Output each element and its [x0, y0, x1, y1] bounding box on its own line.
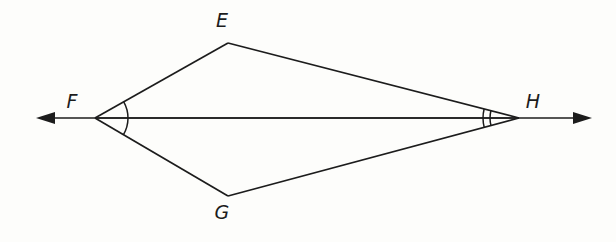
edge-eh: [228, 43, 519, 118]
angle-mark-h-upper-inner: [490, 111, 491, 118]
angle-mark-h-upper: [483, 109, 484, 118]
vertex-label-g: G: [215, 201, 230, 223]
angle-mark-h-lower: [483, 118, 484, 127]
angle-mark-h-lower-inner: [490, 118, 491, 126]
edge-gh: [228, 118, 519, 196]
edge-ef: [95, 43, 228, 118]
geometry-figure: E F G H: [0, 0, 616, 242]
vertex-label-f: F: [66, 90, 78, 112]
vertex-label-h: H: [526, 90, 541, 112]
figure-canvas: E F G H: [0, 0, 616, 242]
vertex-label-e: E: [216, 9, 228, 31]
arrow-right-icon: [573, 112, 592, 124]
kite-edges: [95, 43, 519, 196]
arrow-left-icon: [36, 112, 55, 124]
edge-fg: [95, 118, 228, 196]
